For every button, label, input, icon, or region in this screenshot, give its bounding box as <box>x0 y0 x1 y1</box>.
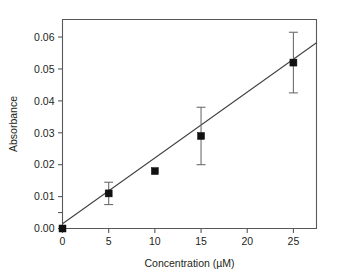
x-tick-label: 20 <box>241 235 253 247</box>
y-tick-label: 0.02 <box>34 158 55 170</box>
x-tick-label: 25 <box>288 235 300 247</box>
y-tick-label: 0.00 <box>34 222 55 234</box>
y-axis: 0.000.010.020.030.040.050.06 <box>34 31 62 234</box>
data-point-marker <box>290 59 297 66</box>
chart-figure: 0.000.010.020.030.040.050.06 0510152025 … <box>0 0 344 280</box>
x-tick-label: 10 <box>149 235 161 247</box>
y-axis-title: Absorbance <box>7 96 19 152</box>
x-tick-label: 15 <box>195 235 207 247</box>
x-tick-label: 0 <box>60 235 66 247</box>
y-tick-label: 0.01 <box>34 190 55 202</box>
y-tick-label: 0.04 <box>34 95 55 107</box>
data-point-marker <box>105 190 112 197</box>
data-point-marker <box>59 225 66 232</box>
y-tick-label: 0.05 <box>34 63 55 75</box>
fit-line-segment <box>63 43 317 224</box>
data-point-markers <box>59 59 297 232</box>
absorbance-calibration-chart: 0.000.010.020.030.040.050.06 0510152025 … <box>0 0 344 280</box>
data-point-marker <box>198 132 205 139</box>
error-bars <box>104 32 298 204</box>
regression-fit-line <box>63 43 317 224</box>
data-point-marker <box>151 168 158 175</box>
y-tick-label: 0.06 <box>34 31 55 43</box>
x-tick-label: 5 <box>106 235 112 247</box>
x-axis-title: Concentration (µM) <box>144 257 234 269</box>
y-tick-label: 0.03 <box>34 127 55 139</box>
x-axis: 0510152025 <box>60 229 300 248</box>
